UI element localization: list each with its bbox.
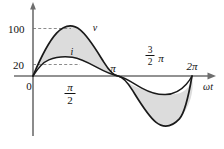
- chart-svg: 100 20 0 π 2 π 3 2 π 2π ωt v i: [0, 0, 224, 149]
- x-tick-two-pi: 2π: [186, 60, 198, 72]
- shaded-region-negative: [118, 76, 193, 126]
- y-tick-label-20: 20: [13, 59, 25, 71]
- y-axis-arrowhead: [30, 2, 36, 9]
- x-tick-three-halves-pi: 3 2 π: [146, 45, 165, 67]
- x-tick-pi-over-2-denominator: 2: [67, 94, 73, 106]
- curve-label-i: i: [71, 46, 74, 57]
- x-tick-three-halves-pi-denominator: 2: [148, 57, 153, 67]
- y-tick-label-100: 100: [8, 23, 25, 35]
- shaded-region-positive: [33, 26, 118, 76]
- x-tick-pi: π: [110, 62, 116, 74]
- x-tick-three-halves-pi-numerator: 3: [148, 45, 153, 55]
- x-tick-pi-over-2: π 2: [65, 81, 76, 106]
- x-tick-three-halves-pi-symbol: π: [158, 52, 164, 64]
- x-axis-label: ωt: [203, 81, 213, 92]
- x-axis-arrowhead: [208, 73, 217, 80]
- origin-label: 0: [26, 80, 32, 92]
- curve-label-v: v: [93, 22, 98, 33]
- x-tick-pi-over-2-numerator: π: [67, 81, 73, 93]
- waveform-figure: 100 20 0 π 2 π 3 2 π 2π ωt v i: [0, 0, 224, 149]
